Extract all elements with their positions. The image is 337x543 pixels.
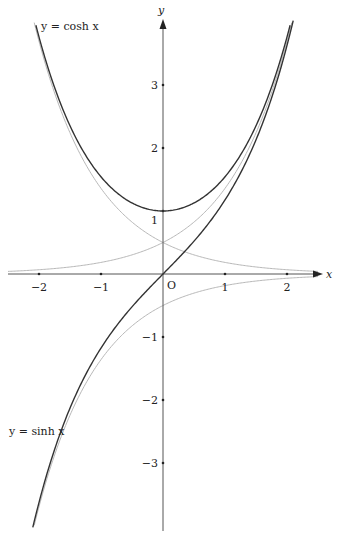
x-tick-label: 1 [222,281,229,294]
y-tick [162,336,165,339]
x-tick [224,273,227,276]
x-tick-label: 2 [284,281,291,294]
x-tick [100,273,103,276]
x-axis-arrow-icon [313,271,323,278]
x-tick-label: −2 [31,281,47,294]
y-tick-label: −1 [142,331,158,344]
sinh-curve-label: y = sinh x [8,425,65,438]
y-axis-arrow-icon [160,19,167,29]
y-tick-label: −3 [142,457,158,470]
y-tick-label: −2 [142,394,158,407]
y-tick-label: 3 [151,79,158,92]
hyperbolic-functions-chart: −2−112321−1−2−3 x y O y = cosh x y = sin… [0,0,337,543]
x-tick [286,273,289,276]
curve-halfexpneg [34,23,318,272]
y-tick [162,147,165,150]
y-axis-label: y [157,4,165,17]
y-tick-label: 2 [151,142,158,155]
cosh-curve-label: y = cosh x [40,20,99,33]
y-tick [162,399,165,402]
x-tick-label: −1 [93,281,109,294]
origin-label: O [167,279,176,292]
curve-neghalfexpneg [34,277,318,526]
y-tick-label: 1 [151,214,158,227]
y-tick [162,462,165,465]
x-axis-label: x [326,268,333,281]
y-tick [162,84,165,87]
curve-halfexp [8,23,292,272]
x-tick [38,273,41,276]
